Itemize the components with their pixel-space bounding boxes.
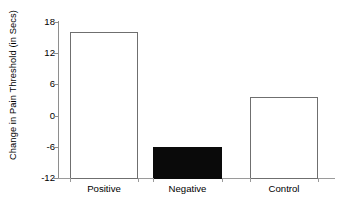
x-category-label-control: Control <box>250 184 318 194</box>
x-tick-mark-4 <box>222 178 223 182</box>
bar-chart-figure: Change in Pain Threshold (in Secs) 18 12… <box>0 0 340 202</box>
bar-negative[interactable] <box>153 147 222 179</box>
bar-positive[interactable] <box>70 32 138 179</box>
x-tick-mark-3 <box>153 178 154 182</box>
y-tick-label-18: 18 <box>11 17 55 27</box>
x-tick-mark-6 <box>318 178 319 182</box>
y-tick-label-12: 12 <box>11 48 55 58</box>
x-tick-mark-2 <box>138 178 139 182</box>
x-tick-mark-5 <box>250 178 251 182</box>
x-tick-mark-1 <box>70 178 71 182</box>
y-axis-line <box>58 21 59 179</box>
y-tick-label-neg12: -12 <box>11 173 55 183</box>
bar-control[interactable] <box>250 97 318 179</box>
y-tick-label-0: 0 <box>11 111 55 121</box>
y-axis-tick-group: 18 12 6 0 -6 -12 <box>0 0 55 202</box>
x-category-label-negative: Negative <box>153 184 222 194</box>
y-tick-label-6: 6 <box>11 79 55 89</box>
y-tick-label-neg6: -6 <box>11 142 55 152</box>
x-category-label-positive: Positive <box>70 184 138 194</box>
